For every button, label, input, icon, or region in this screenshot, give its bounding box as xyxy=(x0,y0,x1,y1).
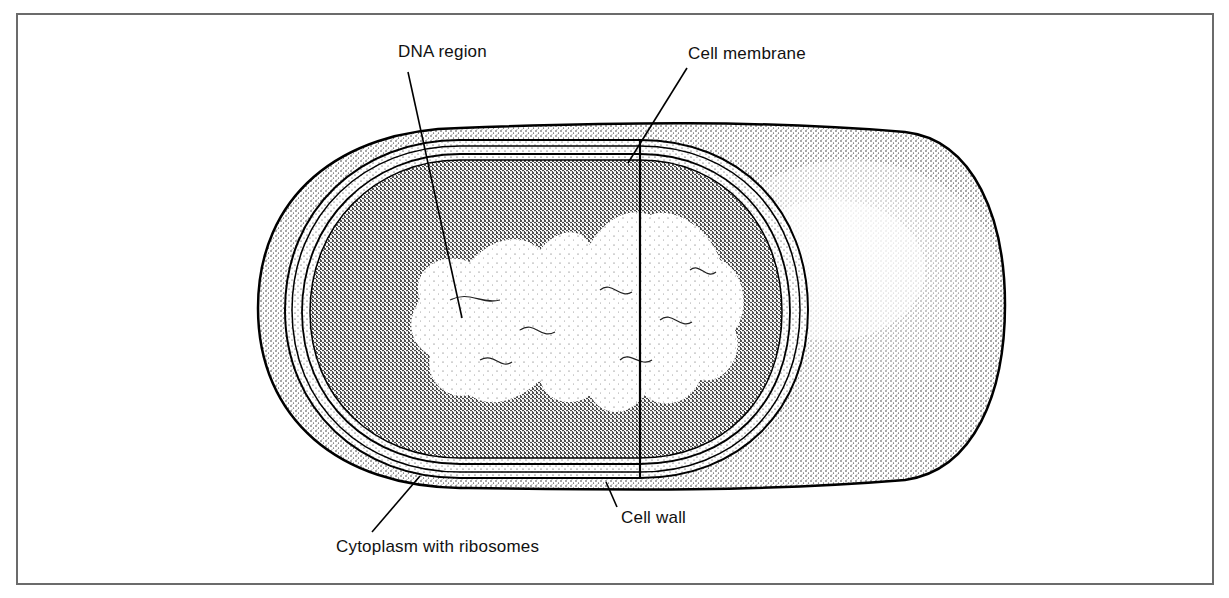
bacterial-cell-diagram xyxy=(0,0,1229,598)
label-dna-region: DNA region xyxy=(398,42,487,62)
label-cell-wall: Cell wall xyxy=(621,508,686,528)
label-cell-membrane: Cell membrane xyxy=(688,44,806,64)
leader-cytoplasm xyxy=(372,476,420,532)
label-cytoplasm: Cytoplasm with ribosomes xyxy=(336,537,539,557)
